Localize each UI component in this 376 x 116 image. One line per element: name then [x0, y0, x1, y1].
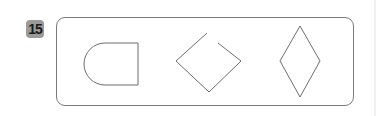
rhombus-icon	[280, 26, 320, 97]
open-square-rotated-icon	[176, 33, 241, 92]
shapes-canvas	[0, 0, 376, 116]
d-shape-icon	[84, 43, 138, 85]
